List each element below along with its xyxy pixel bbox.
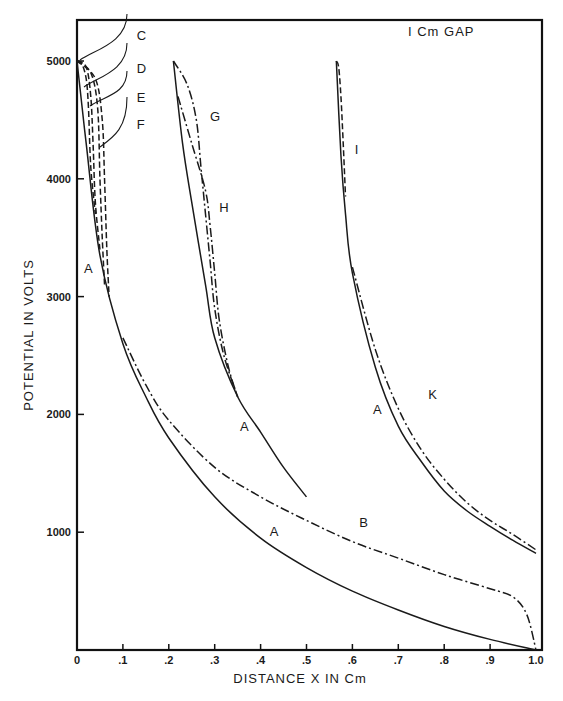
leader-line [84, 43, 127, 87]
curve-label-g: G [210, 109, 220, 124]
x-tick-label: .3 [210, 654, 219, 666]
y-tick-label: 3000 [47, 291, 71, 303]
y-axis-title: POTENTIAL IN VOLTS [21, 259, 36, 411]
curve-label-a: A [270, 524, 279, 539]
curve-label-a: A [84, 261, 93, 276]
x-tick-label: .9 [486, 654, 495, 666]
curve-labels: CDEFAGHAIAKBA [80, 14, 437, 539]
y-tick-label: 2000 [47, 408, 71, 420]
gap-annotation: I Cm GAP [408, 24, 475, 39]
x-tick-label: .4 [256, 654, 266, 666]
curve-b [123, 338, 536, 650]
curve-label-k: K [428, 387, 437, 402]
curve-g [173, 61, 237, 397]
curve-label-i: I [355, 142, 359, 157]
leader-line [90, 71, 127, 106]
curve-label-c: C [137, 28, 146, 43]
curve-label-a: A [240, 419, 249, 434]
curve-label-b: B [359, 515, 368, 530]
axis-ticks: 0.1.2.3.4.5.6.7.8.91.0100020003000400050… [47, 55, 544, 666]
leader-line [100, 97, 127, 147]
x-tick-label: .5 [302, 654, 311, 666]
curve-label-d: D [137, 61, 146, 76]
curve-label-a: A [373, 402, 382, 417]
y-tick-label: 5000 [47, 55, 71, 67]
x-tick-label: .8 [440, 654, 449, 666]
y-tick-label: 4000 [47, 173, 71, 185]
x-tick-label: 1.0 [528, 654, 543, 666]
curve-label-e: E [137, 90, 146, 105]
plot-frame [77, 20, 542, 650]
curve-label-h: H [219, 200, 228, 215]
curve-a-0-57-cm-start- [336, 61, 536, 553]
x-tick-label: .6 [348, 654, 357, 666]
y-tick-label: 1000 [47, 526, 71, 538]
x-tick-label: .7 [394, 654, 403, 666]
curve-label-f: F [137, 117, 145, 132]
x-axis-title: DISTANCE X IN Cm [233, 671, 367, 686]
potential-distance-chart: 0.1.2.3.4.5.6.7.8.91.0100020003000400050… [0, 0, 563, 701]
curves [77, 61, 536, 650]
curve-h [178, 96, 238, 396]
curve-a [77, 61, 536, 650]
x-tick-label: .2 [164, 654, 173, 666]
x-tick-label: .1 [118, 654, 127, 666]
x-tick-label: 0 [74, 654, 80, 666]
plot-border [77, 20, 542, 650]
